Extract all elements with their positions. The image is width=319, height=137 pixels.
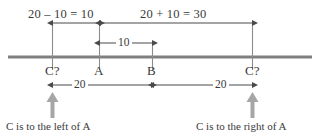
label-right-span: 20 (213, 79, 229, 91)
point-label-b: B (147, 64, 156, 77)
caption-right: C is to the right of A (196, 121, 286, 132)
caption-left: C is to the left of A (6, 121, 90, 132)
pointer-arrow-left (47, 92, 59, 118)
label-left-span: 20 (72, 79, 88, 91)
label-right-equation: 20 + 10 = 30 (140, 8, 207, 21)
number-line-figure: 20 – 10 = 10 20 + 10 = 30 10 C? A B C? 2… (0, 0, 319, 137)
label-ab-distance: 10 (116, 37, 132, 49)
point-label-c-left: C? (45, 64, 59, 77)
label-left-equation: 20 – 10 = 10 (28, 8, 94, 21)
point-label-c-right: C? (245, 64, 259, 77)
point-label-a: A (94, 64, 103, 77)
pointer-arrow-right (247, 92, 259, 118)
